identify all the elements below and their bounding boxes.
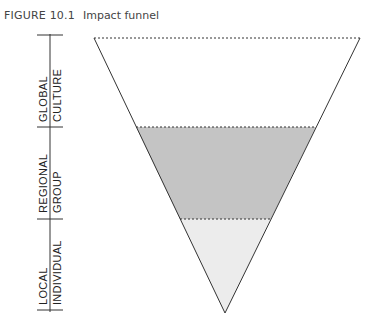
axis-label-line1: GLOBAL <box>37 76 49 122</box>
axis-label-line1: LOCAL <box>37 267 49 305</box>
impact-funnel-diagram: GLOBAL CULTURE REGIONAL GROUP LOCAL INDI… <box>0 0 380 326</box>
funnel-band-regional <box>136 127 316 219</box>
funnel-band-local <box>180 219 271 313</box>
funnel-band-global <box>94 38 360 127</box>
axis-label-line2: INDIVIDUAL <box>51 240 63 305</box>
axis-label-line1: REGIONAL <box>37 154 49 213</box>
axis-label-line2: CULTURE <box>51 69 63 122</box>
axis-label-line2: GROUP <box>51 171 63 213</box>
